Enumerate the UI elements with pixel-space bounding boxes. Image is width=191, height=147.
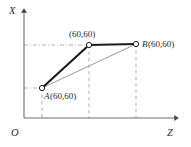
thick-segment-mid-to-b bbox=[89, 44, 136, 45]
x-axis-label: X bbox=[8, 5, 16, 16]
point-a-name-label: A bbox=[43, 91, 50, 101]
segment-a-to-b bbox=[42, 44, 136, 88]
figure-container: X Z O (60,60) B (60,60) A (60,60) bbox=[0, 0, 191, 147]
point-a-label-group: A (60,60) bbox=[43, 91, 76, 101]
thick-segment-a-to-mid bbox=[42, 45, 89, 88]
marker-point-b[interactable] bbox=[133, 41, 138, 46]
point-a-coords-label: (60,60) bbox=[50, 91, 76, 101]
origin-label: O bbox=[11, 127, 19, 138]
midpoint-label: (60,60) bbox=[69, 29, 95, 39]
coordinate-diagram: X Z O (60,60) B (60,60) A (60,60) bbox=[0, 0, 191, 147]
marker-midpoint[interactable] bbox=[86, 42, 91, 47]
axes-group bbox=[24, 11, 176, 118]
z-axis-label: Z bbox=[167, 127, 173, 138]
point-b-label-group: B (60,60) bbox=[142, 39, 174, 49]
marker-point-a[interactable] bbox=[39, 85, 44, 90]
thin-connector-line bbox=[42, 44, 136, 88]
point-b-coords-label: (60,60) bbox=[148, 39, 174, 49]
